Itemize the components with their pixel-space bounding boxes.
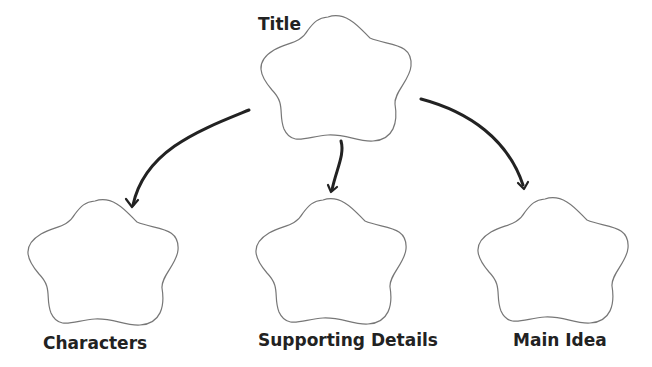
main-idea-shape[interactable] [478,198,628,323]
arrow-title-to-characters [126,110,249,207]
supporting-details-shape[interactable] [256,199,406,324]
arrow-title-to-supporting [328,141,342,192]
supporting-details-label: Supporting Details [258,330,438,350]
main-idea-label: Main Idea [513,330,607,350]
arrow-title-to-main-idea [421,99,528,189]
characters-label: Characters [43,333,147,353]
title-shape[interactable] [261,16,411,141]
title-label: Title [258,14,301,34]
characters-shape[interactable] [28,200,178,325]
diagram-canvas [0,0,652,367]
